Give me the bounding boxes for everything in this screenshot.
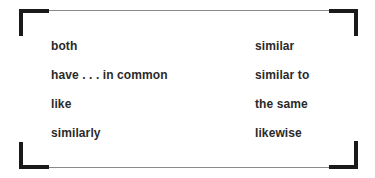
word-similar-to: similar to [255,68,309,82]
corner-top-left-v [19,9,23,36]
word-both: both [51,39,77,53]
bottom-rule [21,167,356,168]
word-likewise: likewise [255,126,302,140]
word-similar: similar [255,39,294,53]
word-similarly: similarly [51,126,101,140]
corner-top-left-h [19,9,49,13]
corner-bottom-left-h [19,165,49,169]
word-the-same: the same [255,97,308,111]
word-like: like [51,97,71,111]
word-have-in-common: have . . . in common [51,68,168,82]
comparison-words-box: both have . . . in common like similarly… [0,0,375,178]
corner-top-right-v [354,9,358,36]
top-rule [21,10,356,11]
corner-bottom-right-h [329,165,358,169]
